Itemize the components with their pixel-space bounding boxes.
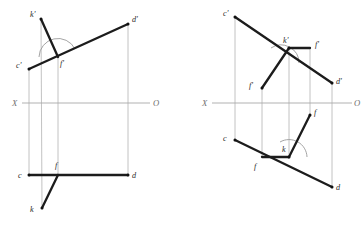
left-axis-label-o: O [153, 98, 159, 108]
left-label-f: f [55, 161, 59, 170]
right-dot-c [234, 139, 237, 142]
left-dot-c [28, 174, 31, 177]
right-label-f-upper: f [314, 108, 318, 117]
right-axis-group: X O [201, 98, 360, 108]
right-axis-label-x: X [201, 98, 208, 108]
left-heavy-segments [29, 19, 128, 208]
right-label-d: d [336, 183, 341, 192]
left-dot-c-prime [28, 68, 31, 71]
right-label-f-prime-low: f' [249, 81, 253, 90]
right-label-f-lower: f [254, 162, 258, 171]
left-dot-k [41, 207, 44, 210]
right-dot-k [288, 156, 291, 159]
left-label-k: k [30, 205, 34, 214]
right-label-c-prime: c' [223, 9, 229, 18]
left-label-d: d [132, 171, 137, 180]
figure-root: X O k' [0, 0, 363, 228]
left-label-k-prime: k' [30, 10, 36, 19]
right-segment-cd-prime [235, 17, 332, 83]
right-segment-kf-prime-low [262, 48, 289, 88]
right-label-c: c [223, 134, 227, 143]
left-label-f-prime: f' [60, 59, 64, 68]
left-segment-kf-prime [41, 19, 58, 57]
right-dot-d-prime [331, 82, 334, 85]
left-dot-d-prime [127, 23, 130, 26]
left-label-c: c [18, 171, 22, 180]
right-label-k: k [282, 145, 286, 154]
geometry-drawing: X O k' [0, 0, 363, 228]
left-label-d-prime: d' [132, 15, 138, 24]
right-projection-group: X O [201, 9, 360, 192]
right-dot-f-prime-low [261, 87, 264, 90]
left-segment-cd-prime [29, 24, 128, 69]
left-segment-kf [42, 175, 58, 208]
left-projection-group: X O k' [11, 10, 159, 214]
right-label-f-prime-top: f' [315, 40, 319, 49]
right-axis-label-o: O [354, 98, 360, 108]
right-dot-k-prime [288, 47, 291, 50]
right-segment-kf-upper [289, 115, 310, 157]
right-dot-f-upper [309, 114, 312, 117]
left-dot-k-prime [40, 18, 43, 21]
left-dot-d [127, 174, 130, 177]
left-label-c-prime: c' [16, 61, 22, 70]
right-dot-c-prime [234, 16, 237, 19]
right-dot-d [331, 186, 334, 189]
right-label-k-prime: k' [283, 36, 289, 45]
right-point-labels: c' k' f' f' d' f c k f d [223, 9, 342, 192]
left-axis-group: X O [11, 98, 159, 108]
right-label-d-prime: d' [336, 77, 342, 86]
left-point-labels: k' d' c' f' c d f k [16, 10, 138, 214]
left-axis-label-x: X [11, 98, 18, 108]
